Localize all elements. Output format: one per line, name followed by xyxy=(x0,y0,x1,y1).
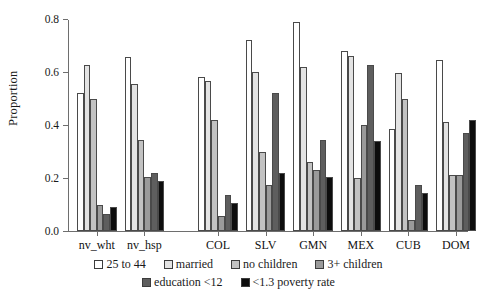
y-axis-title: Proportion xyxy=(6,71,21,126)
bar xyxy=(436,60,443,231)
y-tick-label: 0.4 xyxy=(45,120,59,132)
bar xyxy=(456,175,463,231)
bar xyxy=(367,65,374,231)
legend-swatch-icon xyxy=(315,260,324,269)
y-axis-line xyxy=(68,20,69,232)
legend-label: married xyxy=(176,256,213,272)
bar xyxy=(300,67,307,231)
bar xyxy=(395,73,402,231)
plot-area: 0.00.20.40.60.8 nv_whtnv_hspCOLSLVGMNMEX… xyxy=(68,20,468,232)
bar xyxy=(266,185,273,231)
bar xyxy=(307,162,314,231)
y-tick-label: 0.0 xyxy=(45,226,59,238)
legend-label: <1.3 poverty rate xyxy=(253,274,335,290)
y-tick: 0.0 xyxy=(63,231,68,232)
bar xyxy=(110,207,117,231)
bar xyxy=(443,122,450,231)
bar xyxy=(198,77,205,231)
bar xyxy=(449,175,456,231)
legend-swatch-icon xyxy=(94,260,103,269)
legend-item[interactable]: education <12 xyxy=(142,274,222,290)
x-tick xyxy=(266,232,267,236)
bar-group: nv_wht xyxy=(77,20,117,231)
bar xyxy=(463,133,470,231)
legend-label: no children xyxy=(243,256,297,272)
legend-swatch-icon xyxy=(231,260,240,269)
legend-row: education <12<1.3 poverty rate xyxy=(0,272,477,289)
legend-item[interactable]: 3+ children xyxy=(315,256,382,272)
bar xyxy=(279,173,286,231)
x-tick-label: CUB xyxy=(396,238,421,253)
bar xyxy=(402,99,409,232)
y-tick: 0.4 xyxy=(63,125,68,126)
legend-swatch-icon xyxy=(241,278,250,287)
legend-swatch-icon xyxy=(142,278,151,287)
bar xyxy=(469,120,476,231)
bar xyxy=(225,195,232,231)
bar xyxy=(231,203,238,231)
bar xyxy=(151,173,158,231)
x-tick-label: COL xyxy=(206,238,230,253)
bar xyxy=(131,84,138,231)
bar xyxy=(389,129,396,231)
bar xyxy=(408,220,415,231)
x-tick xyxy=(361,232,362,236)
bar xyxy=(158,181,165,231)
bar xyxy=(218,216,225,231)
legend-item[interactable]: married xyxy=(164,256,213,272)
legend-label: 25 to 44 xyxy=(106,256,145,272)
bar-group: DOM xyxy=(436,20,476,231)
legend-swatch-icon xyxy=(164,260,173,269)
x-tick xyxy=(144,232,145,236)
x-tick-label: SLV xyxy=(255,238,277,253)
bar-group: GMN xyxy=(293,20,333,231)
bar xyxy=(348,56,355,231)
bar xyxy=(361,125,368,231)
bar xyxy=(103,214,110,231)
bar xyxy=(293,22,300,231)
chart-legend: 25 to 44marriedno children3+ childrenedu… xyxy=(0,255,477,290)
bar xyxy=(205,81,212,231)
bar xyxy=(77,93,84,231)
bar xyxy=(138,140,145,231)
bar-group: CUB xyxy=(389,20,429,231)
bar xyxy=(422,193,429,231)
bar-group: SLV xyxy=(246,20,286,231)
bar xyxy=(252,72,259,231)
x-tick xyxy=(218,232,219,236)
bar-group: MEX xyxy=(341,20,381,231)
bar xyxy=(313,170,320,231)
bar xyxy=(320,140,327,231)
bar xyxy=(259,152,266,232)
bar xyxy=(90,99,97,232)
y-tick-label: 0.8 xyxy=(45,14,59,26)
bar xyxy=(125,57,132,231)
chart-figure: Proportion 0.00.20.40.60.8 nv_whtnv_hspC… xyxy=(0,0,477,307)
y-tick-label: 0.2 xyxy=(45,173,59,185)
y-tick: 0.6 xyxy=(63,72,68,73)
bar xyxy=(246,40,253,231)
bar xyxy=(144,177,151,231)
bar xyxy=(272,93,279,231)
legend-label: 3+ children xyxy=(327,256,382,272)
bar-group: COL xyxy=(198,20,238,231)
x-tick xyxy=(408,232,409,236)
legend-item[interactable]: no children xyxy=(231,256,297,272)
bar xyxy=(341,51,348,231)
x-tick-label: nv_wht xyxy=(79,238,115,253)
legend-row: 25 to 44marriedno children3+ children xyxy=(0,255,477,272)
x-tick xyxy=(456,232,457,236)
x-tick-label: DOM xyxy=(442,238,470,253)
x-tick-label: GMN xyxy=(299,238,327,253)
bar xyxy=(354,178,361,231)
legend-item[interactable]: <1.3 poverty rate xyxy=(241,274,335,290)
bar xyxy=(211,120,218,231)
y-tick-label: 0.6 xyxy=(45,67,59,79)
bar xyxy=(84,65,91,231)
y-tick: 0.2 xyxy=(63,178,68,179)
bar xyxy=(326,177,333,231)
x-tick-label: nv_hsp xyxy=(127,238,162,253)
bar-group: nv_hsp xyxy=(125,20,165,231)
legend-item[interactable]: 25 to 44 xyxy=(94,256,145,272)
legend-label: education <12 xyxy=(154,274,222,290)
